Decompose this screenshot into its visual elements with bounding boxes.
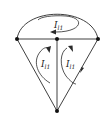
edge-left-bottom <box>17 39 57 111</box>
node-middle <box>55 37 59 41</box>
node-bottom <box>55 109 59 113</box>
node-left <box>15 37 19 41</box>
top-loop-arrowhead-icon <box>50 30 56 35</box>
right-loop-label: Il1 <box>65 59 75 70</box>
edge-right-bottom <box>57 39 98 111</box>
left-loop-label: Il1 <box>40 59 50 70</box>
circuit-graph-diagram: Il1 Il1 Il1 <box>0 0 108 116</box>
top-loop-label: Il1 <box>53 20 63 31</box>
right-loop-arrowhead-icon <box>68 46 73 53</box>
left-loop-arrowhead-icon <box>46 46 51 53</box>
node-right <box>96 37 100 41</box>
